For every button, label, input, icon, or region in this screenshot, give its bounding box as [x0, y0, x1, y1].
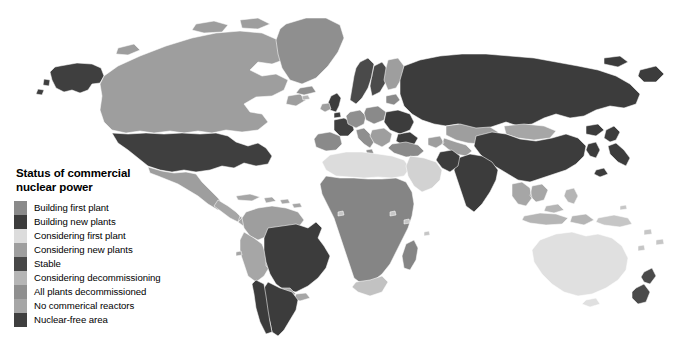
legend-swatch: [14, 285, 27, 299]
legend: Status of commercial nuclear power Build…: [14, 166, 194, 327]
legend-item-label: No commerical reactors: [34, 299, 134, 313]
legend-item-label: Stable: [34, 257, 61, 271]
world-map-figure: Status of commercial nuclear power Build…: [0, 0, 677, 341]
legend-swatch: [14, 257, 27, 271]
legend-item-considering-new-plants: Considering new plants: [14, 243, 194, 257]
legend-item-building-new-plants: Building new plants: [14, 215, 194, 229]
legend-item-label: Considering first plant: [34, 229, 126, 243]
legend-swatch: [14, 243, 27, 257]
region-spain-portugal: [314, 132, 342, 151]
legend-item-label: Considering decommissioning: [34, 271, 161, 285]
legend-item-no-commercial-reactors: No commerical reactors: [14, 299, 194, 313]
legend-swatch: [14, 299, 27, 313]
legend-swatch: [14, 201, 27, 215]
legend-swatch: [14, 313, 27, 327]
legend-item-label: Building new plants: [34, 215, 116, 229]
legend-item-all-plants-decommissioned: All plants decommissioned: [14, 285, 194, 299]
legend-swatch: [14, 271, 27, 285]
legend-item-building-first-plant: Building first plant: [14, 201, 194, 215]
legend-item-stable: Stable: [14, 257, 194, 271]
legend-item-label: All plants decommissioned: [34, 285, 146, 299]
legend-swatch: [14, 215, 27, 229]
legend-item-label: Nuclear-free area: [34, 313, 108, 327]
legend-title: Status of commercial nuclear power: [16, 166, 194, 194]
legend-items: Building first plant Building new plants…: [14, 201, 194, 327]
legend-swatch: [14, 229, 27, 243]
legend-item-label: Building first plant: [34, 201, 109, 215]
legend-item-considering-first-plant: Considering first plant: [14, 229, 194, 243]
legend-item-considering-decommissioning: Considering decommissioning: [14, 271, 194, 285]
legend-item-nuclear-free-area: Nuclear-free area: [14, 313, 194, 327]
legend-item-label: Considering new plants: [34, 243, 133, 257]
